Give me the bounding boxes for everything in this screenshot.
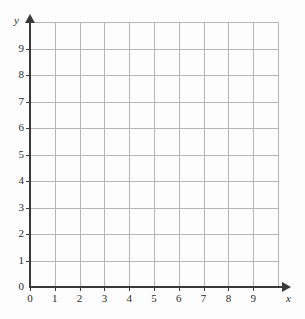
x-axis-tick-label: 2 (70, 292, 90, 305)
y-axis-tick (26, 128, 30, 129)
y-axis-tick-label: 7 (6, 95, 24, 108)
x-axis-name: x (286, 292, 291, 305)
coordinate-grid-figure: 01234567890123456789 y x (0, 0, 305, 319)
y-axis-tick-label: 2 (6, 227, 24, 240)
grid-line-horizontal (30, 75, 278, 76)
y-axis-tick (26, 181, 30, 182)
x-axis-tick (228, 287, 229, 291)
y-axis-name: y (14, 14, 19, 27)
x-axis-tick-label: 6 (169, 292, 189, 305)
y-axis-tick-label: 6 (6, 121, 24, 134)
x-axis-tick-label: 4 (119, 292, 139, 305)
x-axis-line (30, 286, 284, 288)
y-axis-tick-label: 3 (6, 201, 24, 214)
grid-line-horizontal (30, 102, 278, 103)
grid-line-horizontal (30, 234, 278, 235)
y-axis-tick (26, 75, 30, 76)
x-axis-tick (253, 287, 254, 291)
x-axis-arrow-icon (282, 282, 291, 292)
y-axis-tick-label: 4 (6, 174, 24, 187)
y-axis-tick-label: 0 (6, 280, 24, 293)
x-axis-tick-label: 9 (243, 292, 263, 305)
y-axis-tick (26, 234, 30, 235)
y-axis-tick (26, 155, 30, 156)
x-axis-tick-label: 1 (45, 292, 65, 305)
x-axis-tick (154, 287, 155, 291)
grid-line-horizontal (30, 181, 278, 182)
x-axis-tick (80, 287, 81, 291)
x-axis-tick (129, 287, 130, 291)
x-axis-tick-label: 5 (144, 292, 164, 305)
y-axis-tick (26, 261, 30, 262)
grid-line-horizontal (30, 22, 278, 23)
y-axis-tick-label: 8 (6, 68, 24, 81)
x-axis-tick (204, 287, 205, 291)
x-axis-tick (104, 287, 105, 291)
grid-line-vertical (278, 22, 279, 287)
x-axis-tick-label: 0 (20, 292, 40, 305)
y-axis-tick-label: 9 (6, 42, 24, 55)
x-axis-tick-label: 7 (194, 292, 214, 305)
x-axis-tick-label: 3 (94, 292, 114, 305)
y-axis-tick-label: 1 (6, 254, 24, 267)
y-axis-tick (26, 208, 30, 209)
x-axis-tick-label: 8 (218, 292, 238, 305)
x-axis-tick (55, 287, 56, 291)
grid-line-horizontal (30, 261, 278, 262)
plot-area (30, 22, 278, 287)
y-axis-tick-label: 5 (6, 148, 24, 161)
y-axis-arrow-icon (25, 14, 35, 23)
grid-line-horizontal (30, 49, 278, 50)
grid-line-horizontal (30, 208, 278, 209)
y-axis-tick (26, 102, 30, 103)
grid-line-horizontal (30, 128, 278, 129)
y-axis-tick (26, 49, 30, 50)
x-axis-tick (179, 287, 180, 291)
grid-line-horizontal (30, 155, 278, 156)
x-axis-tick (30, 287, 31, 291)
